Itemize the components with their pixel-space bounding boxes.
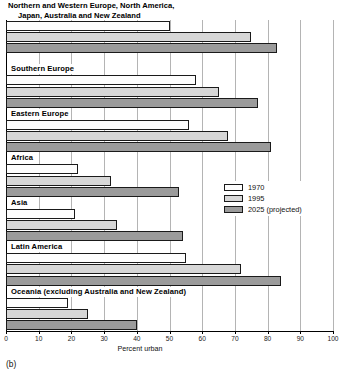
x-tick-80 [268,331,269,334]
bar-2025 [6,98,258,108]
bar-1970 [6,253,186,263]
legend-item-2025: 2025 (projected) [224,204,302,214]
bar-group-label: Asia [10,198,29,208]
x-tick-70 [235,331,236,334]
bar-1970 [6,21,170,31]
x-tick-50 [170,331,171,334]
x-tick-90 [300,331,301,334]
bar-group-label: Eastern Europe [10,109,71,119]
bar-1995 [6,131,228,141]
x-tick-label-10: 10 [35,335,42,342]
bar-group-label: Southern Europe [10,64,76,74]
x-tick-10 [39,331,40,334]
x-tick-label-30: 30 [100,335,107,342]
x-axis-title: Percent urban [0,344,280,353]
legend-swatch-1970 [224,184,243,191]
x-tick-40 [137,331,138,334]
bar-group: Eastern Europe [6,109,333,153]
bar-2025 [6,320,137,330]
plot-area: Southern EuropeEastern EuropeAfricaAsiaL… [6,20,333,331]
chart-group-header: Northern and Western Europe, North Ameri… [8,1,174,21]
bar-group: Latin America [6,242,333,286]
bar-1995 [6,176,111,186]
bar-group-label: Africa [10,153,35,163]
bar-2025 [6,231,183,241]
bar-2025 [6,142,271,152]
bar-1970 [6,120,189,130]
bar-1970 [6,298,68,308]
x-tick-0 [6,331,7,334]
x-tick-label-50: 50 [166,335,173,342]
x-tick-label-40: 40 [133,335,140,342]
x-tick-label-0: 0 [4,335,8,342]
chart-group-header-line-1: Northern and Western Europe, North Ameri… [8,1,174,11]
bar-2025 [6,43,277,53]
bar-1995 [6,220,117,230]
bar-1970 [6,209,75,219]
bar-group-label: Latin America [10,242,64,252]
bar-1995 [6,309,88,319]
legend-swatch-1995 [224,195,243,202]
x-tick-100 [333,331,334,334]
bar-group [6,20,333,64]
x-tick-label-90: 90 [297,335,304,342]
bar-1970 [6,75,196,85]
bar-1995 [6,32,251,42]
x-tick-60 [202,331,203,334]
x-tick-30 [104,331,105,334]
x-tick-label-20: 20 [68,335,75,342]
legend-label-1970: 1970 [248,183,264,192]
figure-panel: Northern and Western Europe, North Ameri… [0,0,342,375]
bar-group-label: Oceania (excluding Australia and New Zea… [10,287,188,297]
legend-label-1995: 1995 [248,194,264,203]
legend-label-2025: 2025 (projected) [248,205,302,214]
bar-1995 [6,264,241,274]
x-tick-label-80: 80 [264,335,271,342]
x-tick-label-100: 100 [327,335,338,342]
x-axis: 0102030405060708090100 [6,331,333,332]
legend-item-1970: 1970 [224,182,302,192]
x-tick-20 [71,331,72,334]
bar-1995 [6,87,219,97]
bar-2025 [6,187,179,197]
bar-2025 [6,276,281,286]
legend: 1970 1995 2025 (projected) [222,181,304,216]
bar-group: Southern Europe [6,64,333,108]
figure-caption: (b) [6,359,16,369]
bar-1970 [6,164,78,174]
x-tick-label-70: 70 [231,335,238,342]
legend-item-1995: 1995 [224,193,302,203]
bar-group: Oceania (excluding Australia and New Zea… [6,287,333,331]
x-tick-label-60: 60 [199,335,206,342]
gridline-100 [333,20,334,331]
legend-swatch-2025 [224,206,243,213]
